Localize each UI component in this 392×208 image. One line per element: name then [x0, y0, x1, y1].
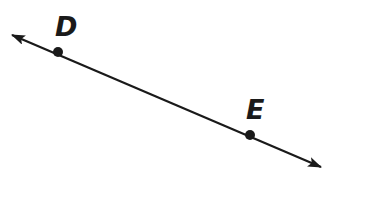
label-d: D — [55, 11, 77, 42]
point-e — [245, 130, 255, 140]
label-e: E — [246, 94, 265, 125]
line-de-diagram: D E — [0, 0, 392, 208]
point-d — [53, 47, 63, 57]
